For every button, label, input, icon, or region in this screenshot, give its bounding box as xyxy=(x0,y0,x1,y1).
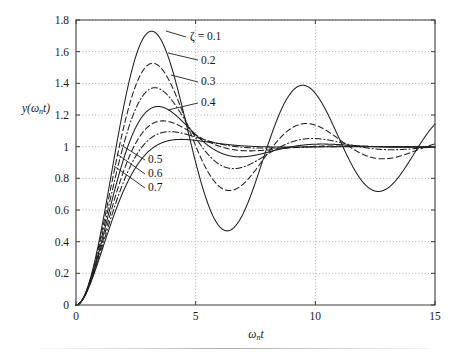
x-tick-label: 5 xyxy=(193,310,199,322)
page-scan-rule xyxy=(30,348,430,349)
annotation-label: 0.6 xyxy=(148,167,163,179)
y-tick-label: 1 xyxy=(63,141,69,153)
y-axis-title: y(ωnt) xyxy=(21,102,50,116)
y-tick-label: 0.6 xyxy=(55,204,70,216)
y-tick-label: 1.8 xyxy=(55,14,70,26)
x-tick-label: 10 xyxy=(310,310,322,322)
annotation-label: 0.4 xyxy=(201,96,216,108)
annotation-label: 0.5 xyxy=(148,153,163,165)
y-tick-label: 0.2 xyxy=(55,267,70,279)
y-tick-label: 1.6 xyxy=(55,46,70,58)
y-tick-label: 1.4 xyxy=(55,77,70,89)
y-tick-label: 0.8 xyxy=(55,172,70,184)
y-tick-label: 1.2 xyxy=(55,109,70,121)
step-response-chart: 00.20.40.60.811.21.41.61.8051015 ζ = 0.1… xyxy=(0,0,454,358)
x-axis-title: ωnt xyxy=(248,328,264,342)
annotation-label: 0.2 xyxy=(201,54,216,66)
annotation-label: 0.7 xyxy=(148,181,163,193)
y-tick-label: 0 xyxy=(63,299,69,311)
y-tick-label: 0.4 xyxy=(55,236,70,248)
x-tick-label: 15 xyxy=(429,310,441,322)
annotation-label: ζ = 0.1 xyxy=(190,30,222,43)
x-tick-label: 0 xyxy=(73,310,79,322)
annotation-label: 0.3 xyxy=(201,75,216,87)
